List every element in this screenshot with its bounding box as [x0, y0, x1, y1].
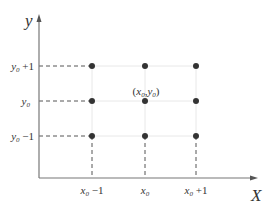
x-tick-label-left: x0 −1 [80, 184, 104, 198]
dashed-guides [39, 66, 196, 178]
x-axis-arrow-icon [250, 176, 258, 181]
y-axis-label: y [23, 11, 33, 30]
x-tick-label-right: x0 +1 [184, 184, 208, 198]
point [142, 133, 148, 139]
grid-point-diagram: y X y0 +1 y0 y0 −1 x0 −1 x0 x0 +1 (x0,y0… [0, 0, 268, 210]
y-axis-arrow-icon [37, 14, 42, 22]
center-point-label: (x0,y0) [133, 85, 160, 99]
point [193, 133, 199, 139]
point [89, 63, 95, 69]
point [89, 133, 95, 139]
point [89, 98, 95, 104]
point [142, 63, 148, 69]
point [193, 98, 199, 104]
x-axis-label: X [250, 186, 262, 205]
y-tick-label-top: y0 +1 [10, 60, 34, 74]
y-tick-label-mid: y0 [21, 95, 31, 109]
x-tick-label-mid: x0 [140, 184, 150, 198]
y-tick-label-bottom: y0 −1 [10, 130, 34, 144]
point [193, 63, 199, 69]
